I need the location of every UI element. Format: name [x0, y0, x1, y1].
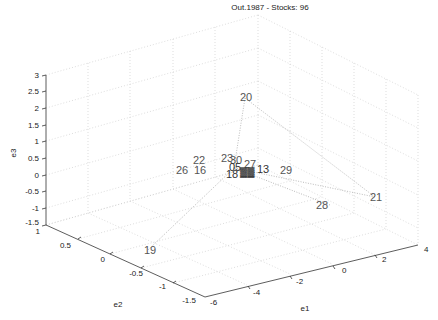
x-tick: -4 [253, 288, 261, 297]
point-label: 29 [280, 164, 292, 176]
point-label: 19 [144, 244, 156, 256]
x-axis-label: e1 [301, 304, 310, 313]
z-tick: 3 [35, 71, 40, 80]
z-tick: -0.5 [25, 187, 39, 196]
y-tick: 0.5 [60, 241, 72, 250]
chart-3d-scatter: Out.1987 - Stocks: 96 3 2.5 2 1.5 1 0.5 … [0, 0, 438, 320]
z-tick: 2.5 [28, 87, 40, 96]
z-axis-label: e3 [9, 148, 18, 157]
z-tick: 0 [35, 171, 40, 180]
point-label: 20 [240, 91, 252, 103]
y-tick: -1 [159, 282, 167, 291]
z-tick: 0.5 [28, 154, 40, 163]
point-label: 28 [316, 199, 328, 211]
point-label: 16 [194, 164, 206, 176]
chart-title: Out.1987 - Stocks: 96 [231, 3, 309, 12]
point-label: 18 [226, 168, 238, 180]
x-tick: 0 [342, 266, 347, 275]
x-tick-labels: -6 -4 -2 0 2 4 [210, 245, 429, 307]
axes [42, 75, 418, 297]
z-tick: 2 [35, 104, 40, 113]
point-label: 13 [257, 163, 269, 175]
y-tick: 0 [101, 255, 106, 264]
x-tick: 4 [424, 245, 429, 254]
z-tick: -1 [32, 204, 40, 213]
z-tick-labels: 3 2.5 2 1.5 1 0.5 0 -0.5 -1 -1.5 [25, 71, 39, 227]
z-tick: 1.5 [28, 121, 40, 130]
x-tick: 2 [382, 255, 387, 264]
grid-lines [46, 15, 418, 285]
y-tick: -1.5 [182, 296, 196, 305]
y-tick: 1 [36, 227, 41, 236]
cluster-overlap-label: ▓▓ [240, 166, 255, 178]
y-axis-label: e2 [114, 300, 123, 309]
y-tick-labels: -1.5 -1 -0.5 0 0.5 1 [36, 227, 197, 305]
x-tick: -2 [296, 277, 304, 286]
x-tick: -6 [210, 298, 218, 307]
point-label: 21 [370, 191, 382, 203]
y-tick: -0.5 [129, 269, 143, 278]
point-label: 26 [176, 164, 188, 176]
z-tick: -1.5 [25, 218, 39, 227]
z-tick: 1 [35, 137, 40, 146]
